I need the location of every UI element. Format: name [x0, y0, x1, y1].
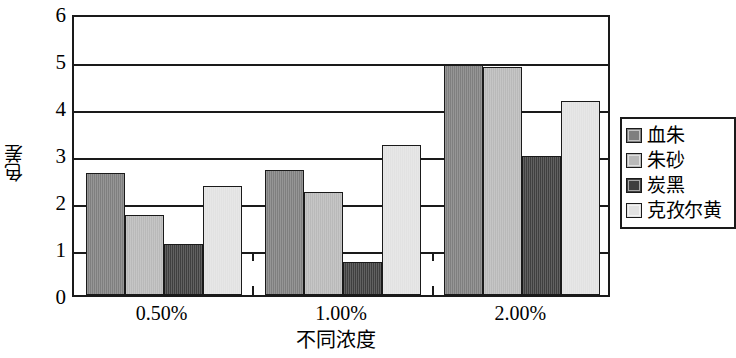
- bars-layer: [74, 17, 608, 295]
- y-axis-tick-label: 1: [36, 240, 66, 261]
- bar: [444, 65, 483, 295]
- legend-item-label: 炭黑: [647, 176, 684, 195]
- legend-item-label: 朱砂: [647, 151, 684, 170]
- legend-item: 克孜尔黄: [626, 198, 731, 223]
- x-axis-tick-label: 0.50%: [136, 303, 188, 323]
- category-tick: [252, 252, 254, 261]
- y-axis-tick-label: 4: [36, 99, 66, 120]
- category-tick: [252, 286, 254, 295]
- y-axis-tick-label: 5: [36, 52, 66, 73]
- legend-item-label: 克孜尔黄: [647, 201, 721, 220]
- bar: [304, 192, 343, 295]
- y-axis-tick-label: 2: [36, 193, 66, 214]
- bar: [382, 145, 421, 295]
- bar: [86, 173, 125, 295]
- bar: [522, 156, 561, 295]
- bar: [483, 67, 522, 295]
- legend-item-label: 血朱: [647, 126, 684, 145]
- x-axis-tick-label: 2.00%: [494, 303, 546, 323]
- bar: [164, 244, 203, 295]
- x-axis-title: 不同浓度: [0, 330, 672, 350]
- bar: [203, 186, 242, 295]
- legend-swatch-icon: [626, 178, 642, 193]
- legend-item: 炭黑: [626, 173, 731, 198]
- y-axis-title: 色差: [0, 118, 30, 208]
- y-axis-tick-label: 3: [36, 146, 66, 167]
- category-tick: [432, 286, 434, 295]
- legend-item: 血朱: [626, 123, 731, 148]
- bar: [265, 170, 304, 295]
- plot-area: [72, 15, 610, 297]
- legend-swatch-icon: [626, 128, 642, 143]
- bar-chart: 色差 0123456 0.50%1.00%2.00% 不同浓度 血朱朱砂炭黑克孜…: [0, 0, 736, 358]
- bar: [343, 262, 382, 295]
- legend-swatch-icon: [626, 203, 642, 218]
- x-axis-ticks: 0.50%1.00%2.00%: [72, 303, 610, 329]
- legend-swatch-icon: [626, 153, 642, 168]
- y-axis-tick-label: 6: [36, 5, 66, 26]
- category-tick: [432, 252, 434, 261]
- bar: [125, 215, 164, 295]
- y-axis-ticks: 0123456: [36, 15, 66, 297]
- chart-legend: 血朱朱砂炭黑克孜尔黄: [620, 117, 736, 229]
- bar: [561, 101, 600, 295]
- legend-item: 朱砂: [626, 148, 731, 173]
- y-axis-tick-label: 0: [36, 287, 66, 308]
- x-axis-tick-label: 1.00%: [315, 303, 367, 323]
